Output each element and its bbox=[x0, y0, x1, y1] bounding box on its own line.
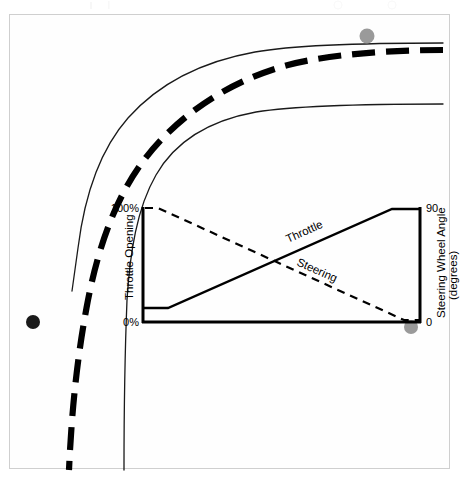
chart-left-axis-label: Throttle Opening bbox=[123, 214, 135, 300]
scan-artifacts bbox=[90, 1, 396, 9]
inner-track-edge-path bbox=[124, 104, 443, 470]
chart-tick-bottom-right: 0 bbox=[426, 316, 432, 328]
chart-tick-top-left: 100% bbox=[111, 202, 139, 214]
throttle-series-path bbox=[143, 209, 420, 308]
driver-input-chart: 100% 0% 90 0 Throttle Opening Steering W… bbox=[111, 202, 459, 328]
chart-right-axis-label-line1: Steering Wheel Angle bbox=[435, 207, 447, 318]
steering-series-path bbox=[145, 208, 420, 320]
corner-exit-marker bbox=[360, 29, 375, 44]
diagram-canvas: 100% 0% 90 0 Throttle Opening Steering W… bbox=[0, 0, 461, 483]
chart-right-axis-label-line2: (degrees) bbox=[447, 251, 459, 300]
corner-apex-marker bbox=[26, 315, 40, 329]
figure-root: 100% 0% 90 0 Throttle Opening Steering W… bbox=[0, 0, 461, 483]
chart-tick-bottom-left: 0% bbox=[123, 316, 139, 328]
